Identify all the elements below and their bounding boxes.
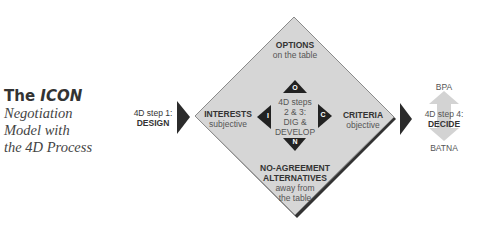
step1-line1: 4D step 1: <box>128 108 178 118</box>
no-agreement-label: NO-AGREEMENT ALTERNATIVES away from the … <box>250 163 340 203</box>
step1-label: 4D step 1: DESIGN <box>128 108 178 128</box>
options-label: OPTIONS on the table <box>255 40 335 60</box>
title-sub-line-1: Negotiation <box>4 105 134 122</box>
interests-heading: INTERESTS <box>204 109 252 119</box>
interests-sub: subjective <box>200 119 256 129</box>
interests-label: INTERESTS subjective <box>200 109 256 129</box>
no-agreement-sub-1: away from <box>250 183 340 193</box>
options-heading: OPTIONS <box>276 40 314 50</box>
bpa-label: BPA <box>424 82 464 92</box>
title-heading: The ICON <box>4 88 134 105</box>
options-sub: on the table <box>255 50 335 60</box>
step4-label: 4D step 4: DECIDE <box>414 109 474 129</box>
marker-n: N <box>290 138 300 145</box>
center-line4: DEVELOP <box>270 127 320 137</box>
batna-label: BATNA <box>419 143 469 153</box>
title-sub-line-3: the 4D Process <box>4 139 134 156</box>
title-prefix: The <box>4 87 35 105</box>
marker-o: O <box>290 84 300 91</box>
title-emphasis: ICON <box>40 87 82 105</box>
center-line1: 4D steps <box>270 97 320 107</box>
center-line3: DIG & <box>270 117 320 127</box>
decide-arrow-icon <box>400 103 412 135</box>
no-agreement-heading-2: ALTERNATIVES <box>263 173 327 183</box>
criteria-label: CRITERIA objective <box>338 110 388 130</box>
diagram-title: The ICON Negotiation Model with the 4D P… <box>4 88 134 156</box>
no-agreement-heading-1: NO-AGREEMENT <box>260 163 330 173</box>
title-sub-line-2: Model with <box>4 122 134 139</box>
step4-line1: 4D step 4: <box>414 109 474 119</box>
center-label: 4D steps 2 & 3: DIG & DEVELOP <box>270 97 320 137</box>
criteria-heading: CRITERIA <box>343 110 383 120</box>
step4-line2: DECIDE <box>428 119 460 129</box>
center-line2: 2 & 3: <box>270 107 320 117</box>
criteria-sub: objective <box>338 120 388 130</box>
step1-line2: DESIGN <box>137 118 170 128</box>
no-agreement-sub-2: the table <box>250 193 340 203</box>
design-arrow-icon <box>177 101 190 134</box>
